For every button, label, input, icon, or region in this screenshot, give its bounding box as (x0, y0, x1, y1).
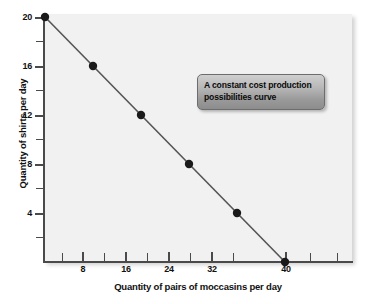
data-point (41, 13, 49, 21)
chart-figure: 8 16 24 32 40 20 16 12 8 4 A constant co… (0, 0, 382, 304)
x-axis-title: Quantity of pairs of moccasins per day (44, 281, 352, 292)
data-point (233, 209, 241, 217)
data-point (137, 111, 145, 119)
callout-line-2: possibilities curve (204, 91, 318, 103)
callout-line-1: A constant cost production (204, 79, 318, 91)
data-point (89, 62, 97, 70)
data-point (281, 258, 289, 266)
data-point (185, 160, 193, 168)
curve-description-callout: A constant cost production possibilities… (197, 74, 325, 110)
y-axis-title: Quantity of shirts per day (17, 49, 28, 219)
series-layer (0, 0, 382, 304)
ppf-line (45, 17, 285, 262)
